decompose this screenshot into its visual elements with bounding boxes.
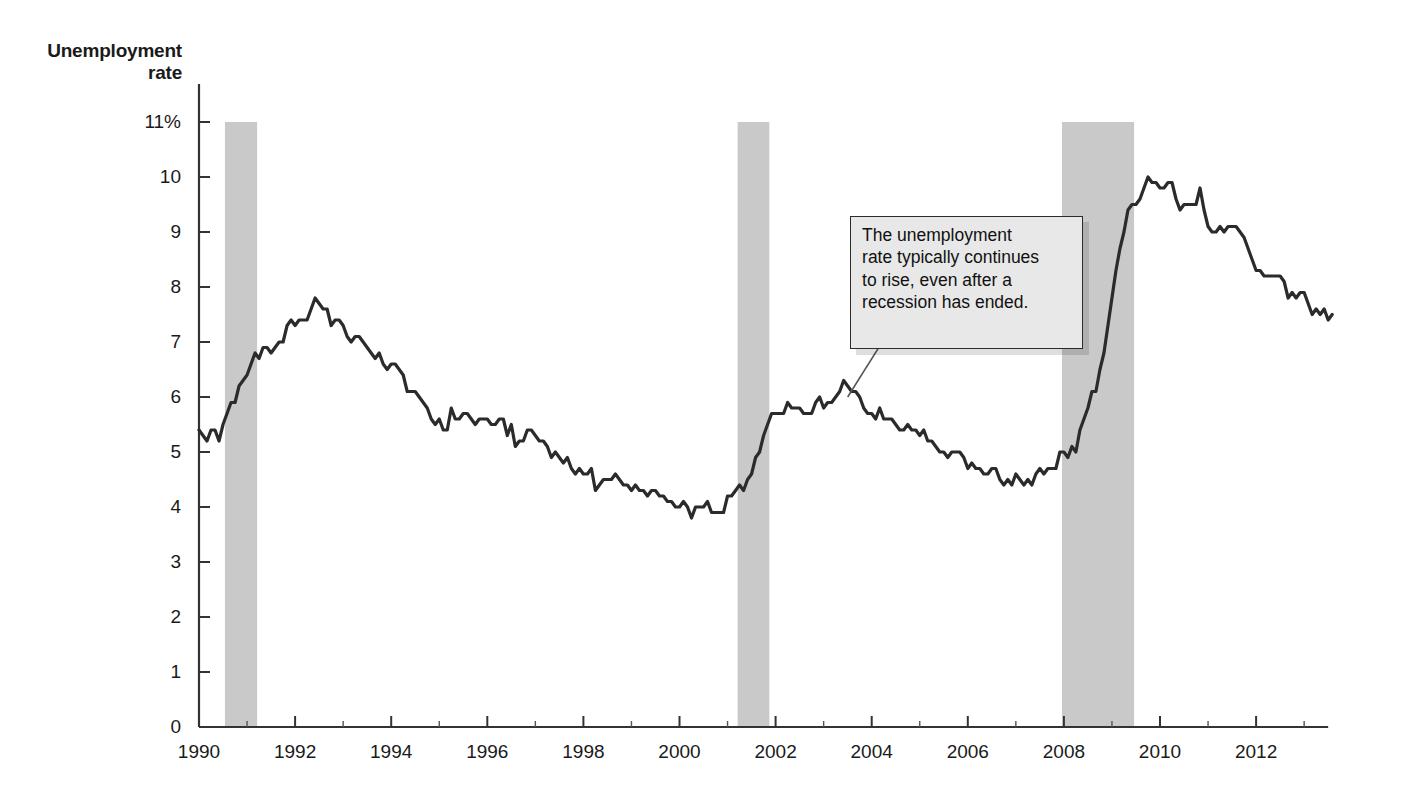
- recession-band: [738, 122, 770, 727]
- x-axis-tick-label: 2010: [1139, 741, 1181, 763]
- recession-lag-annotation: The unemployment rate typically continue…: [850, 216, 1083, 349]
- y-axis-tick-label: 10: [95, 166, 181, 188]
- x-axis-tick-label: 1990: [178, 741, 220, 763]
- x-axis-tick-label: 2004: [851, 741, 893, 763]
- y-axis-tick-label: 4: [95, 496, 181, 518]
- y-axis-tick-label: 6: [95, 386, 181, 408]
- y-axis-title: Unemployment rate: [12, 40, 182, 84]
- x-axis-tick-label: 1994: [370, 741, 412, 763]
- x-axis-tick-label: 2006: [947, 741, 989, 763]
- chart-plot-area: [0, 0, 1405, 807]
- recession-band-group: [225, 122, 1134, 727]
- y-axis-tick-label: 2: [95, 606, 181, 628]
- x-axis-tick-label: 2002: [754, 741, 796, 763]
- recession-band: [225, 122, 257, 727]
- chart-figure: Unemployment rate 11%1098765432101990199…: [0, 0, 1405, 807]
- x-axis-tick-label: 2012: [1235, 741, 1277, 763]
- x-axis-tick-label: 2000: [658, 741, 700, 763]
- x-axis-tick-label: 1998: [562, 741, 604, 763]
- y-axis-tick-label: 3: [95, 551, 181, 573]
- x-axis-tick-label: 2008: [1043, 741, 1085, 763]
- y-axis-tick-label: 0: [95, 716, 181, 738]
- annotation-leader-line: [848, 349, 878, 397]
- y-axis-tick-label: 11%: [95, 111, 181, 133]
- x-axis-tick-label: 1992: [274, 741, 316, 763]
- y-axis-tick-label: 7: [95, 331, 181, 353]
- y-axis-tick-label: 1: [95, 661, 181, 683]
- y-axis-tick-label: 9: [95, 221, 181, 243]
- x-axis-tick-label: 1996: [466, 741, 508, 763]
- recession-band: [1062, 122, 1134, 727]
- annotation-leader-line: [848, 349, 878, 397]
- y-axis-tick-label: 8: [95, 276, 181, 298]
- y-axis-tick-label: 5: [95, 441, 181, 463]
